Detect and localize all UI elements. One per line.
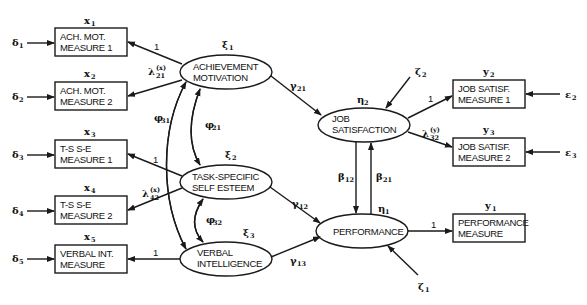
svg-text:β: β — [338, 171, 345, 182]
y1-indicator-box: PERFORMANCE MEASURE y1 — [453, 200, 529, 242]
svg-text:ACH. MOT.: ACH. MOT. — [60, 31, 105, 42]
svg-text:3: 3 — [490, 129, 495, 137]
svg-text:ACH. MOT.: ACH. MOT. — [60, 85, 105, 96]
latent-performance: PERFORMANCE η1 — [316, 203, 408, 248]
svg-text:λ: λ — [422, 128, 429, 139]
delta-error-terms: δ1 δ2 δ3 δ4 δ5 — [12, 37, 54, 266]
svg-text:3: 3 — [91, 131, 96, 139]
svg-text:(y): (y) — [430, 126, 440, 134]
svg-text:3: 3 — [19, 154, 24, 162]
svg-text:γ: γ — [290, 255, 297, 266]
svg-text:ζ: ζ — [415, 66, 421, 77]
svg-text:δ: δ — [12, 37, 19, 48]
svg-text:21: 21 — [156, 72, 165, 80]
y-loadings: 1 λ32(y) 1 — [408, 93, 452, 231]
sem-diagram: ACH. MOT. MEASURE 1 x1 ACH. MOT. MEASURE… — [0, 0, 587, 305]
svg-text:x: x — [84, 126, 91, 137]
svg-text:MEASURE 2: MEASURE 2 — [60, 210, 112, 221]
svg-text:λ: λ — [142, 188, 149, 199]
x4-indicator-box: T-S S-E MEASURE 2 x4 — [55, 182, 127, 224]
gamma-paths: γ21 γ12 γ13 — [270, 76, 321, 268]
svg-text:21: 21 — [383, 176, 392, 184]
svg-text:3: 3 — [250, 232, 255, 240]
svg-text:MEASURE 1: MEASURE 1 — [458, 94, 510, 105]
svg-text:1: 1 — [385, 208, 390, 216]
svg-text:4: 4 — [91, 187, 96, 195]
zeta-disturbances: ζ2 ζ1 — [386, 66, 430, 294]
svg-text:SELF ESTEEM: SELF ESTEEM — [192, 182, 255, 193]
svg-text:y: y — [482, 66, 490, 77]
svg-text:SATISFACTION: SATISFACTION — [332, 124, 397, 135]
svg-text:ξ: ξ — [225, 149, 231, 160]
svg-text:x: x — [84, 68, 91, 79]
svg-text:x: x — [84, 15, 91, 26]
x1-indicator-box: ACH. MOT. MEASURE 1 x1 — [55, 15, 127, 56]
svg-text:JOB SATISF.: JOB SATISF. — [458, 83, 510, 94]
svg-text:2: 2 — [490, 71, 495, 79]
svg-text:MEASURE: MEASURE — [60, 259, 105, 270]
svg-text:2: 2 — [19, 96, 24, 104]
svg-text:MEASURE 1: MEASURE 1 — [60, 42, 112, 53]
svg-text:MEASURE 2: MEASURE 2 — [60, 96, 112, 107]
svg-text:1: 1 — [425, 286, 430, 294]
svg-text:VERBAL: VERBAL — [197, 247, 233, 258]
svg-text:2: 2 — [364, 99, 369, 107]
svg-text:5: 5 — [19, 258, 24, 266]
svg-text:TASK-SPECIFIC: TASK-SPECIFIC — [192, 171, 260, 182]
x5-indicator-box: VERBAL INT. MEASURE x5 — [55, 231, 127, 273]
svg-text:1: 1 — [229, 44, 234, 52]
svg-text:δ: δ — [12, 149, 19, 160]
x-loadings: 1 λ21(x) 1 λ42(x) 1 — [128, 41, 182, 259]
svg-text:y: y — [484, 200, 492, 211]
svg-text:x: x — [84, 231, 91, 242]
svg-text:1: 1 — [19, 42, 24, 50]
y2-indicator-box: JOB SATISF. MEASURE 1 y2 — [453, 66, 525, 108]
svg-text:ACHIEVEMENT: ACHIEVEMENT — [193, 61, 259, 72]
x3-indicator-box: T-S S-E MEASURE 1 x3 — [55, 126, 127, 168]
svg-text:(x): (x) — [150, 186, 160, 194]
svg-text:1: 1 — [492, 205, 497, 213]
svg-text:T-S S-E: T-S S-E — [60, 199, 91, 210]
svg-text:5: 5 — [91, 236, 96, 244]
svg-text:ε: ε — [565, 89, 571, 100]
svg-text:2: 2 — [232, 154, 237, 162]
svg-text:ξ: ξ — [243, 227, 249, 238]
svg-text:1: 1 — [428, 93, 433, 104]
svg-text:MEASURE: MEASURE — [458, 228, 503, 239]
svg-text:42: 42 — [150, 194, 159, 202]
latent-job-satisfaction: JOB SATISFACTION η2 — [318, 94, 410, 142]
svg-text:JOB: JOB — [332, 113, 350, 124]
svg-text:1: 1 — [91, 20, 96, 28]
svg-text:PERFORMANCE: PERFORMANCE — [458, 217, 529, 228]
svg-text:32: 32 — [430, 134, 439, 142]
svg-text:ζ: ζ — [418, 281, 424, 292]
svg-text:λ: λ — [148, 66, 155, 77]
svg-text:3: 3 — [572, 152, 577, 160]
svg-text:x: x — [84, 182, 91, 193]
svg-text:PERFORMANCE: PERFORMANCE — [333, 226, 404, 237]
svg-text:1: 1 — [154, 41, 159, 52]
svg-text:2: 2 — [572, 94, 577, 102]
svg-text:4: 4 — [19, 210, 24, 218]
svg-text:γ: γ — [292, 198, 299, 209]
svg-text:21: 21 — [212, 124, 221, 132]
svg-text:MEASURE 1: MEASURE 1 — [60, 154, 112, 165]
svg-text:21: 21 — [297, 85, 306, 93]
svg-text:γ: γ — [290, 80, 297, 91]
svg-text:1: 1 — [153, 247, 158, 258]
latent-achievement-motivation: ACHIEVEMENT MOTIVATION ξ1 — [180, 39, 272, 89]
svg-text:32: 32 — [213, 219, 222, 227]
svg-text:δ: δ — [12, 253, 19, 264]
svg-text:MEASURE 2: MEASURE 2 — [458, 152, 510, 163]
svg-text:(x): (x) — [156, 64, 166, 72]
svg-text:JOB SATISF.: JOB SATISF. — [458, 141, 510, 152]
svg-text:13: 13 — [297, 260, 307, 268]
x2-indicator-box: ACH. MOT. MEASURE 2 x2 — [55, 68, 127, 110]
svg-text:2: 2 — [422, 71, 427, 79]
svg-text:δ: δ — [12, 205, 19, 216]
svg-text:VERBAL INT.: VERBAL INT. — [60, 248, 113, 259]
svg-text:y: y — [482, 124, 490, 135]
svg-text:MOTIVATION: MOTIVATION — [193, 72, 248, 83]
y3-indicator-box: JOB SATISF. MEASURE 2 y3 — [453, 124, 525, 166]
svg-text:2: 2 — [91, 73, 96, 81]
